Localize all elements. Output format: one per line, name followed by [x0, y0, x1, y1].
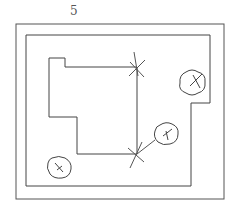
site-plan-diagram — [0, 0, 237, 213]
tree-bottom-left — [47, 157, 71, 179]
property-boundary — [16, 24, 224, 199]
building-footprint — [49, 58, 137, 154]
tree-middle-right — [154, 123, 178, 145]
tree-top-right — [180, 70, 206, 95]
